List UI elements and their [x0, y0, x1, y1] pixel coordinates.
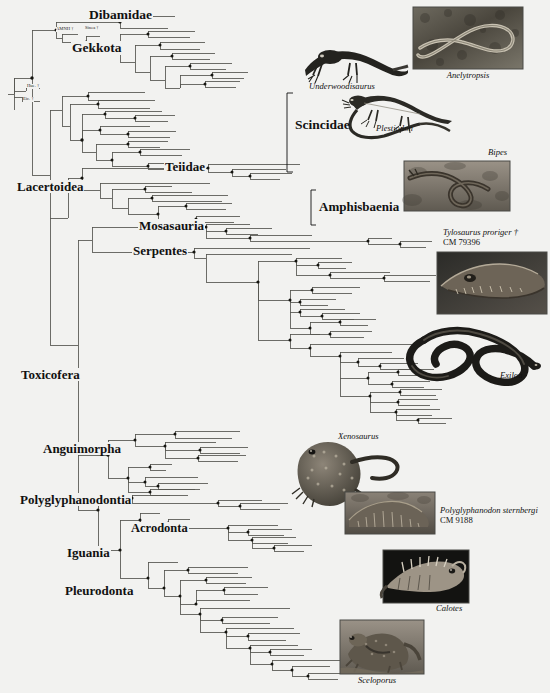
- amphisbaenia-bracket: [311, 190, 316, 225]
- caption-text: Underwoodisaurus: [309, 81, 375, 91]
- clade-label-dibamidae: Dibamidae: [88, 8, 153, 22]
- clade-brackets: [287, 93, 316, 225]
- clade-label-acrodonta: Acrodonta: [130, 522, 189, 535]
- shinisaurus-fossil-label: Sinea †: [85, 26, 99, 31]
- caption-specimen: CM 9188: [440, 516, 538, 526]
- clade-label-mosasauria: Mosasauria: [138, 219, 205, 232]
- caption-sceloporus: Sceloporus: [358, 676, 396, 686]
- caption-polyglyphanodon: Polyglyphanodon sternbergi CM 9188: [440, 506, 538, 526]
- scincidae-bracket: [287, 93, 293, 172]
- clade-label-teiidae: Teiidae: [164, 160, 206, 173]
- clade-label-polyglyphanodontia: Polyglyphanodontia: [19, 493, 132, 506]
- sceloporus-photo-art: [340, 620, 424, 674]
- amnh-fossil-label: AMNH †: [56, 27, 73, 32]
- clade-label-gekkota: Gekkota: [71, 41, 123, 55]
- node-dots: [30, 20, 419, 677]
- caption-plestiodon: Plestiodon: [376, 124, 413, 134]
- caption-text: Tylosaurus proriger †: [443, 227, 518, 237]
- clade-label-pleurodonta: Pleurodonta: [64, 584, 134, 597]
- bipes-photo-art: [402, 161, 510, 211]
- clade-label-toxicofera: Toxicofera: [20, 368, 81, 381]
- tylosaurus-photo-art: [437, 252, 547, 314]
- caption-anelytropsis: Anelytropsis: [447, 71, 490, 81]
- phylogeny-figure: Dibamidae Gekkota Scincidae Teiidae Amph…: [0, 0, 550, 693]
- underwoodisaurus-photo-art: [305, 50, 408, 83]
- caption-text: Calotes: [436, 603, 462, 613]
- caption-bipes: Bipes: [488, 148, 507, 158]
- caption-text: Polyglyphanodon sternbergi: [440, 505, 538, 515]
- caption-text: Exiloa: [500, 370, 522, 380]
- clade-label-anguimorpha: Anguimorpha: [42, 442, 122, 455]
- huehuecuetzpalli-fossil-label: Hue. †: [27, 84, 39, 89]
- caption-underwoodisaurus: Underwoodisaurus: [309, 82, 375, 92]
- clade-label-iguania: Iguania: [66, 546, 111, 559]
- eichstaettisaurus-fossil-label: Eic. †: [23, 97, 34, 102]
- caption-text: Plestiodon: [376, 123, 413, 133]
- clade-label-amphisbaenia: Amphisbaenia: [318, 200, 400, 213]
- anelytropsis-photo-art: [413, 7, 523, 69]
- caption-xenosaurus: Xenosaurus: [338, 432, 379, 442]
- clade-label-lacertoidea: Lacertoidea: [16, 180, 84, 193]
- clade-label-serpentes: Serpentes: [132, 244, 188, 257]
- caption-text: Bipes: [488, 147, 507, 157]
- caption-text: Xenosaurus: [338, 431, 379, 441]
- caption-specimen: CM 79396: [443, 238, 518, 248]
- caption-text: Anelytropsis: [447, 70, 490, 80]
- caption-exiloa: Exiloa: [500, 371, 522, 381]
- clade-label-scincidae: Scincidae: [294, 118, 351, 132]
- caption-tylosaurus: Tylosaurus proriger † CM 79396: [443, 228, 518, 248]
- calotes-photo-art: [381, 550, 469, 603]
- caption-calotes: Calotes: [436, 604, 462, 614]
- polyglyphanodon-photo-art: [345, 492, 435, 534]
- caption-text: Sceloporus: [358, 675, 396, 685]
